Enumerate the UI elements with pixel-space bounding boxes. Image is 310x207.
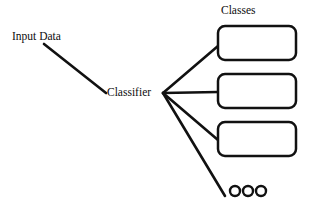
more-classes-ellipsis-icon xyxy=(230,186,266,196)
ellipsis-dot xyxy=(230,186,240,196)
input-data-label: Input Data xyxy=(12,31,61,43)
ellipsis-dot xyxy=(243,186,253,196)
edge-classifier-to-class-1 xyxy=(163,46,218,93)
classifier-label: Classifier xyxy=(107,87,151,99)
edge-input-to-classifier xyxy=(44,44,106,93)
edge-classifier-to-class-3 xyxy=(163,93,218,140)
ellipsis-dot xyxy=(256,186,266,196)
class-box-3[interactable] xyxy=(218,122,296,156)
class-box-1[interactable] xyxy=(218,26,296,60)
classes-title-label: Classes xyxy=(221,5,256,17)
edge-classifier-to-ellipsis xyxy=(163,93,225,196)
class-box-2[interactable] xyxy=(218,74,296,108)
classifier-diagram: Input Data Classifier Classes xyxy=(0,0,310,207)
edge-classifier-to-class-2 xyxy=(163,92,218,93)
